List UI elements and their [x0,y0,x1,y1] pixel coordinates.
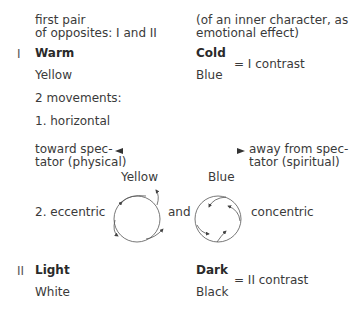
left-arrow-icon [115,148,123,154]
numeral-two: II [17,264,24,278]
concentric-circle-icon [195,196,241,242]
eccentric-circle-icon [114,190,163,242]
light-title: Light [35,264,70,277]
contrast-two: = II contrast [234,274,308,287]
black-label: Black [196,286,228,299]
right-arrow-icon [237,148,245,154]
white-label: White [35,286,70,299]
dark-title: Dark [196,264,228,277]
